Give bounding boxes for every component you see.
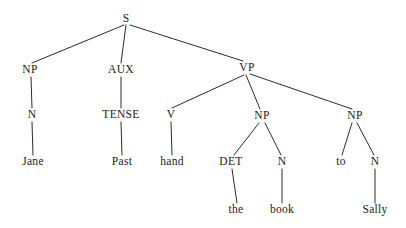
tree-edge-layer xyxy=(0,0,406,228)
tree-leaf-hand: hand xyxy=(160,156,184,168)
tree-node-n2: N xyxy=(278,156,287,168)
tree-edge-v-hand xyxy=(171,122,172,155)
syntax-tree-diagram: SNPAUXVPNTENSEVNPNPJanePasthandDETNtoNth… xyxy=(0,0,406,228)
tree-edge-np1-n1 xyxy=(31,77,32,108)
tree-node-s: S xyxy=(123,13,130,25)
tree-edge-s-vp xyxy=(130,25,243,61)
tree-leaf-to: to xyxy=(336,156,346,168)
tree-node-v: V xyxy=(167,109,176,121)
tree-edge-vp-np2 xyxy=(246,75,260,109)
tree-node-np2: NP xyxy=(254,110,269,122)
tree-node-tense: TENSE xyxy=(102,109,139,121)
tree-node-n1: N xyxy=(28,109,37,121)
tree-edge-np3-n3 xyxy=(357,123,374,155)
tree-node-np3: NP xyxy=(347,110,362,122)
tree-edge-s-aux xyxy=(121,25,126,63)
tree-edge-vp-v xyxy=(172,75,244,108)
tree-node-aux: AUX xyxy=(108,64,134,76)
tree-leaf-book: book xyxy=(270,204,294,216)
tree-leaf-sally: Sally xyxy=(362,204,387,216)
tree-leaf-the: the xyxy=(229,204,244,216)
tree-node-n3: N xyxy=(371,156,380,168)
tree-edge-det-the xyxy=(232,169,237,203)
tree-node-np1: NP xyxy=(22,64,37,76)
tree-leaf-past: Past xyxy=(112,156,132,168)
tree-edge-np2-n2 xyxy=(265,123,281,155)
tree-node-det: DET xyxy=(219,156,242,168)
tree-edge-np2-det xyxy=(234,123,259,155)
tree-edge-np3-to xyxy=(342,123,352,155)
tree-leaf-jane: Jane xyxy=(22,156,44,168)
tree-edge-vp-np3 xyxy=(250,74,352,109)
tree-edge-tense-past xyxy=(121,122,122,155)
tree-edge-n1-jane xyxy=(32,122,33,155)
tree-edge-s-np1 xyxy=(32,25,124,63)
tree-node-vp: VP xyxy=(239,62,254,74)
